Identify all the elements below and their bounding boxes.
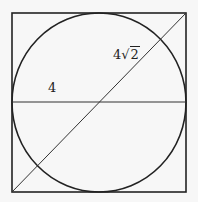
diagram-canvas — [0, 0, 198, 202]
sqrt-expression: √2 — [121, 48, 140, 61]
radius-label: 4 — [48, 81, 56, 94]
geometry-diagram: 4 4√2 — [0, 0, 198, 202]
sqrt-symbol-icon: √ — [121, 47, 129, 62]
sqrt-radicand: 2 — [130, 46, 140, 62]
diagonal-coefficient: 4 — [113, 47, 121, 62]
diagonal-label: 4√2 — [113, 48, 140, 61]
